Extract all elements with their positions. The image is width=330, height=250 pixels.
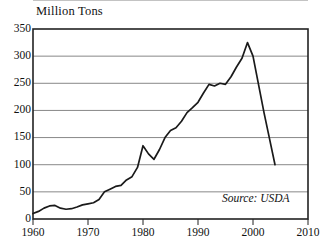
axis-ticks — [33, 219, 308, 225]
data-series-line — [33, 43, 275, 214]
chart-plot-svg — [0, 0, 330, 250]
chart-container: Million Tons 350 300 250 200 150 100 50 … — [0, 0, 330, 250]
